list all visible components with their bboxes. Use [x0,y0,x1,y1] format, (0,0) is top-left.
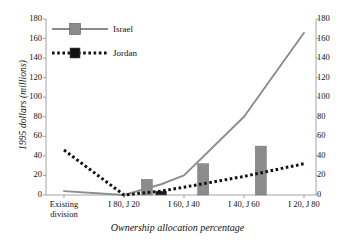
legend-label-israel: Israel [113,24,133,34]
legend-label-jordan: Jordan [113,48,137,58]
chart-figure: 1995 dollars (millions) 1801601401201008… [0,0,353,242]
x-tick-label: I 20, J 80 [268,200,340,210]
x-tick-line1: Existing [50,199,78,209]
bar-group [141,146,266,195]
x-axis-title: Ownership allocation percentage [45,222,310,233]
legend-marks [52,24,108,59]
line-group [64,33,304,195]
x-tick-line2: division [50,209,77,219]
plot-frame [43,19,319,198]
